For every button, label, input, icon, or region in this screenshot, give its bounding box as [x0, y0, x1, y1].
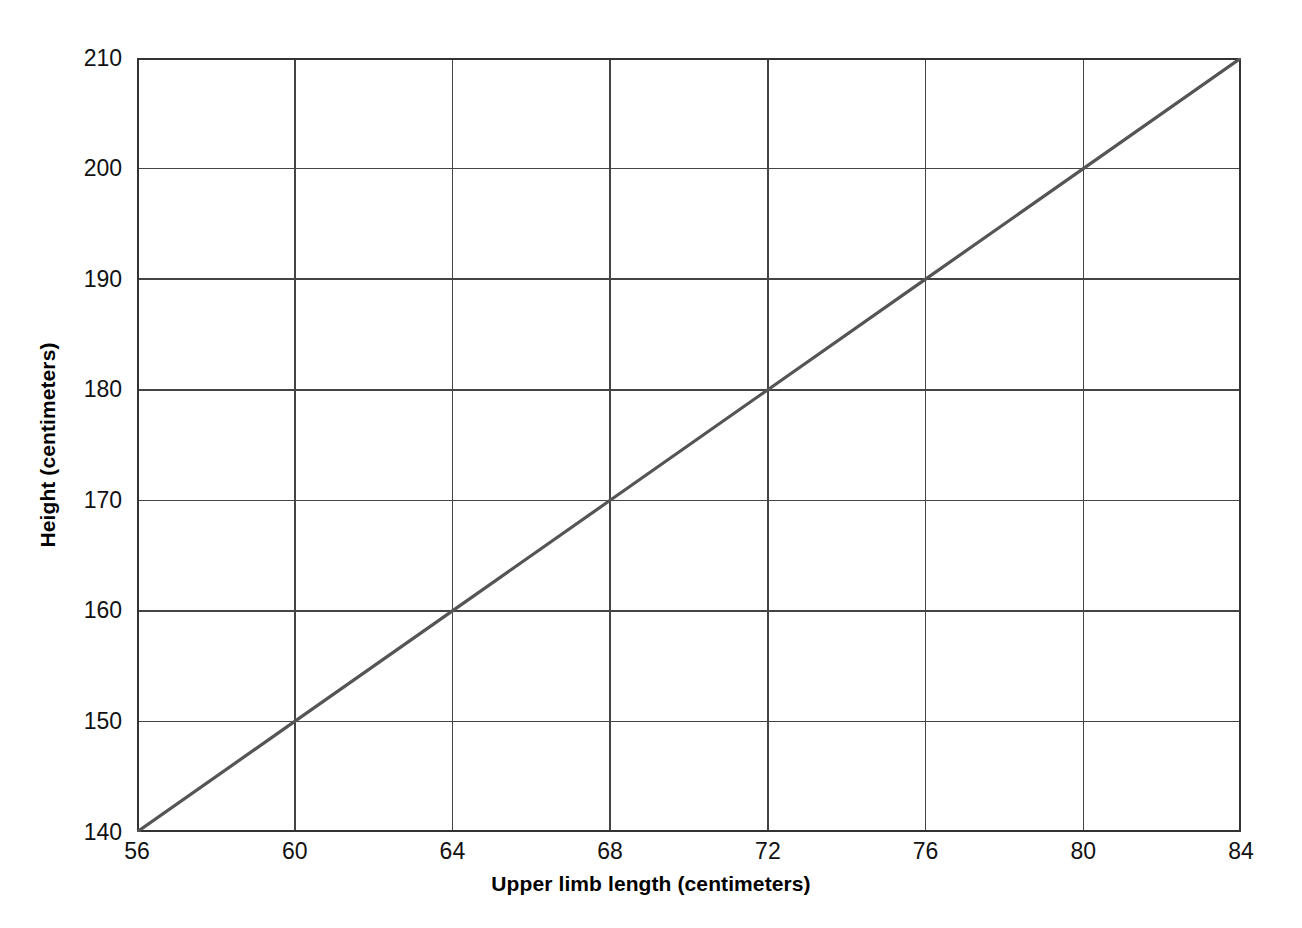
plot-area: [137, 58, 1241, 832]
x-tick-label: 64: [440, 840, 466, 863]
plot-svg: [137, 58, 1241, 832]
x-tick-label: 72: [755, 840, 781, 863]
x-tick-label: 80: [1071, 840, 1097, 863]
y-tick-label: 180: [84, 378, 122, 401]
data-line-series: [137, 58, 1241, 832]
x-tick-label: 84: [1228, 840, 1254, 863]
x-tick-label: 68: [597, 840, 623, 863]
y-tick-label: 190: [84, 268, 122, 291]
x-axis-title: Upper limb length (centimeters): [0, 872, 1302, 896]
x-tick-label: 60: [282, 840, 308, 863]
y-tick-label: 200: [84, 157, 122, 180]
y-axis-title-wrap: Height (centimeters): [33, 58, 63, 832]
y-tick-label: 170: [84, 489, 122, 512]
y-tick-label: 160: [84, 599, 122, 622]
y-axis-title: Height (centimeters): [36, 342, 60, 547]
chart-container: 210 200 190 180 170 160 150 140: [0, 0, 1302, 928]
y-tick-label: 210: [84, 47, 122, 70]
y-tick-label: 150: [84, 710, 122, 733]
x-tick-label: 56: [124, 840, 150, 863]
x-tick-label: 76: [913, 840, 939, 863]
